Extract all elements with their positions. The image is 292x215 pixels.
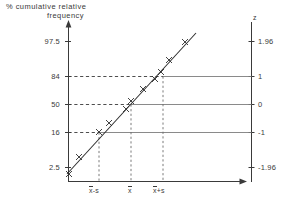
x-tick-suffix: +s xyxy=(157,187,165,194)
y-tick-label-2-5: 2.5 xyxy=(24,163,60,172)
x-tick-suffix: -s xyxy=(93,187,99,194)
y-tick-label-16: 16 xyxy=(24,128,60,137)
xbar-glyph: x xyxy=(89,187,93,194)
y-tick-label-50: 50 xyxy=(24,100,60,109)
x-axis xyxy=(69,179,248,185)
xbar-glyph: x xyxy=(153,187,157,194)
z-tick-label-0: 0 xyxy=(258,100,262,109)
y-axis xyxy=(66,20,72,182)
xbar-glyph: x xyxy=(128,187,132,194)
data-point-marker xyxy=(158,69,164,75)
x-tick-label-xbar-minus-s: x-s xyxy=(89,187,99,194)
x-tick-label-xbar-plus-s: x+s xyxy=(153,187,165,194)
z-tick-label-1-96: 1.96 xyxy=(258,37,273,46)
data-point-marker xyxy=(123,106,129,112)
y-tick-label-97-5: 97.5 xyxy=(24,37,60,46)
z-tick-label-neg-1-96: -1.96 xyxy=(258,163,276,172)
data-points xyxy=(66,39,188,177)
z-tick-label-1: 1 xyxy=(258,72,262,81)
z-tick-label-neg-1: -1 xyxy=(258,128,265,137)
x-tick-label-xbar: x xyxy=(128,187,132,194)
data-point-marker xyxy=(106,120,112,126)
data-point-marker xyxy=(152,76,158,82)
y-tick-label-84: 84 xyxy=(24,72,60,81)
chart-figure: % cumulative relative frequency z xyxy=(0,0,292,215)
data-point-marker xyxy=(76,154,82,160)
fitted-line xyxy=(67,33,196,174)
